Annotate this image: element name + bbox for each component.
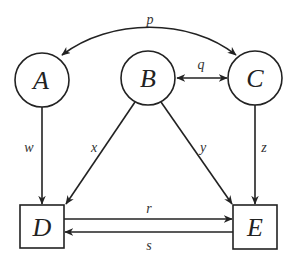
node-c: C xyxy=(228,51,282,105)
edge-label-w: w xyxy=(24,140,34,155)
node-b: B xyxy=(121,51,175,105)
edge-label-y: y xyxy=(198,140,207,155)
node-a-label: A xyxy=(31,66,49,95)
edge-y-arrow xyxy=(161,102,232,204)
graph-diagram: p q w x y z r s A B C xyxy=(0,0,295,262)
edge-z: z xyxy=(255,105,267,204)
node-e-label: E xyxy=(246,213,263,242)
edge-label-q: q xyxy=(198,57,205,72)
node-a: A xyxy=(15,53,69,107)
edge-label-x: x xyxy=(90,140,98,155)
node-b-label: B xyxy=(140,64,156,93)
edge-q: q xyxy=(177,57,227,78)
edge-label-r: r xyxy=(146,201,152,216)
node-d: D xyxy=(20,205,64,248)
node-d-label: D xyxy=(32,213,52,242)
edge-r: r xyxy=(64,201,232,219)
edge-w: w xyxy=(24,107,42,204)
edge-y: y xyxy=(161,102,232,204)
edge-label-z: z xyxy=(260,140,267,155)
edge-x-arrow xyxy=(66,102,135,204)
node-e: E xyxy=(233,205,277,249)
edge-label-s: s xyxy=(146,238,152,253)
node-c-label: C xyxy=(246,64,264,93)
edge-p: p xyxy=(62,12,236,55)
edge-s: s xyxy=(65,232,233,253)
edge-x: x xyxy=(66,102,135,204)
edge-label-p: p xyxy=(146,12,154,27)
